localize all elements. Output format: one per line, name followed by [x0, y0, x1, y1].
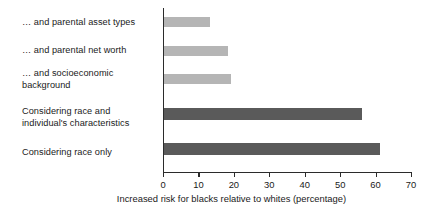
bar-2: [164, 74, 231, 84]
x-tick-60: [376, 172, 377, 177]
category-label-3: Considering race and individual's charac…: [22, 106, 160, 129]
x-tick-label-0: 0: [160, 179, 165, 190]
bar-3: [164, 108, 362, 120]
x-tick-label-20: 20: [229, 179, 239, 190]
x-axis-title-text: Increased risk for blacks relative to wh…: [93, 193, 346, 204]
category-label-0: … and parental asset types: [22, 17, 160, 29]
x-tick-label-30: 30: [264, 179, 274, 190]
x-tick-label-60: 60: [370, 179, 380, 190]
x-axis-line: [163, 172, 411, 173]
x-tick-40: [305, 172, 306, 177]
bar-1: [164, 46, 228, 56]
x-tick-label-10: 10: [193, 179, 203, 190]
bar-4: [164, 143, 380, 155]
category-label-2: … and socioeconomic background: [22, 68, 160, 91]
x-tick-30: [269, 172, 270, 177]
bar-chart: … and parental asset types … and parenta…: [0, 0, 439, 217]
x-tick-label-70: 70: [406, 179, 416, 190]
category-label-4: Considering race only: [22, 147, 160, 159]
x-axis-title: Increased risk for blacks relative to wh…: [0, 193, 439, 204]
x-tick-50: [340, 172, 341, 177]
category-label-1: … and parental net worth: [22, 45, 160, 57]
x-tick-20: [234, 172, 235, 177]
x-tick-label-40: 40: [299, 179, 309, 190]
bar-0: [164, 17, 210, 27]
x-tick-70: [411, 172, 412, 177]
x-tick-10: [198, 172, 199, 177]
x-tick-0: [163, 172, 164, 177]
x-tick-label-50: 50: [335, 179, 345, 190]
plot-area: 010203040506070: [163, 8, 413, 173]
